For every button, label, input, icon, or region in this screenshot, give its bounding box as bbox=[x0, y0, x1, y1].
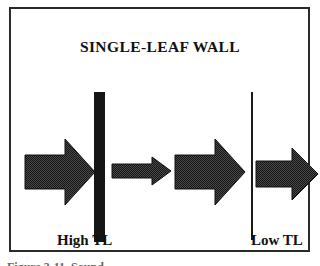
figure-caption-partial: Figure 3-11. Sound bbox=[7, 261, 157, 266]
arrow-incident-sound bbox=[25, 139, 95, 205]
wall-thin-low-tl bbox=[251, 92, 253, 240]
wall-thick-high-tl bbox=[94, 92, 105, 242]
label-low-tl: Low TL bbox=[251, 232, 303, 249]
label-high-tl: High TL bbox=[57, 232, 112, 249]
arrow-incident-sound-second bbox=[175, 139, 245, 205]
figure-single-leaf-wall: SINGLE-LEAF WALL bbox=[0, 0, 320, 266]
arrow-transmitted-large bbox=[256, 148, 318, 200]
figure-title: SINGLE-LEAF WALL bbox=[0, 38, 320, 56]
arrow-transmitted-reduced bbox=[112, 157, 171, 185]
